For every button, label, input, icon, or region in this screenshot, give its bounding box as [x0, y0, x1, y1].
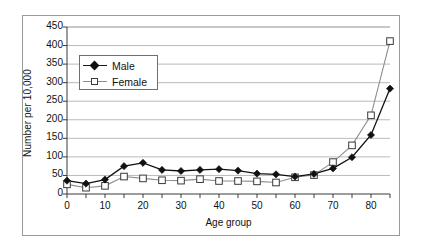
chart-legend: Male Female [79, 55, 158, 90]
x-tick-label: 70 [316, 201, 350, 211]
legend-swatch-female [80, 75, 110, 89]
legend-swatch-male [80, 59, 110, 73]
y-axis-title-label: Number per 10,000 [22, 48, 33, 178]
diamond-marker-icon [90, 60, 100, 70]
x-tick-label: 40 [202, 201, 236, 211]
x-tick-label: 10 [88, 201, 122, 211]
x-axis-title-label: Age group [205, 217, 251, 228]
square-marker-icon [91, 78, 98, 85]
x-tick-label: 20 [126, 201, 160, 211]
x-tick-label: 0 [50, 201, 84, 211]
x-axis-title: Age group [67, 217, 390, 228]
x-tick-label: 50 [240, 201, 274, 211]
legend-label-male: Male [110, 60, 135, 72]
x-tick-label: 30 [164, 201, 198, 211]
legend-item-male: Male [80, 57, 157, 74]
x-axis-tick-labels: 01020304050607080 [0, 0, 425, 250]
x-tick-label: 80 [354, 201, 388, 211]
x-tick-label: 60 [278, 201, 312, 211]
legend-item-female: Female [80, 73, 157, 90]
y-axis-title: Number per 10,000 [22, 0, 33, 48]
legend-label-female: Female [110, 76, 147, 88]
